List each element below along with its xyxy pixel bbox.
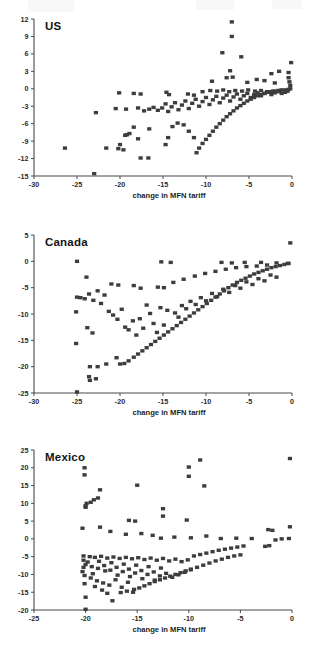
data-point (200, 142, 204, 145)
scatter-plot-us: -15-12-9-6-3036912-30-25-20-15-10-50USch… (0, 0, 311, 215)
data-point (214, 125, 218, 128)
panel-title-mexico: Mexico (45, 451, 85, 463)
data-point (204, 551, 208, 554)
data-point (80, 527, 84, 530)
data-point (116, 147, 120, 150)
data-point (262, 279, 266, 282)
data-point (155, 331, 159, 334)
data-point (211, 130, 215, 133)
data-point (115, 573, 119, 576)
data-point (186, 558, 190, 561)
data-point (200, 90, 204, 93)
data-point (273, 538, 277, 541)
data-point (194, 303, 198, 306)
data-point (250, 283, 254, 286)
data-point (139, 532, 143, 535)
data-point (82, 582, 86, 585)
data-point (182, 123, 186, 126)
data-point (220, 51, 224, 54)
data-point (286, 262, 290, 265)
data-point (90, 331, 94, 334)
data-point (228, 112, 232, 115)
data-point (127, 359, 131, 362)
x-tick-label: -30 (29, 397, 39, 406)
data-point (170, 105, 174, 108)
data-point (111, 555, 115, 558)
data-point (146, 565, 150, 568)
data-point (219, 261, 223, 264)
data-point (220, 557, 224, 560)
y-tick-label: -15 (18, 588, 28, 597)
data-point (85, 326, 89, 329)
data-point (226, 286, 230, 289)
data-point (148, 312, 152, 315)
data-point (75, 390, 79, 393)
data-point (147, 127, 151, 130)
chart-panel-mexico: -20-15-10-50510152025-25-20-15-10-50Mexi… (0, 428, 311, 646)
data-point (100, 588, 104, 591)
data-point (151, 106, 155, 109)
data-point (162, 286, 166, 289)
data-point (132, 355, 136, 358)
x-tick-label: 0 (290, 397, 294, 406)
panel-title-us: US (45, 20, 62, 32)
data-point (139, 286, 143, 289)
data-point (136, 106, 140, 109)
axis-spines (34, 450, 292, 610)
data-point (238, 553, 242, 556)
data-point (228, 99, 232, 102)
data-point (173, 573, 177, 576)
data-point (287, 537, 291, 540)
data-point (227, 291, 231, 294)
data-point (81, 566, 85, 569)
data-point (194, 98, 198, 101)
data-point (88, 379, 92, 382)
data-point (268, 273, 272, 276)
data-point (197, 105, 201, 108)
data-point (230, 35, 234, 38)
y-tick-label: -12 (18, 154, 28, 163)
x-tick-label: -25 (72, 397, 82, 406)
data-point (87, 292, 91, 295)
data-point (126, 581, 130, 584)
data-point (121, 148, 125, 151)
data-point (224, 268, 228, 271)
data-point (93, 585, 97, 588)
data-point (175, 324, 179, 327)
data-point (265, 268, 269, 271)
data-point (173, 557, 177, 560)
data-point (201, 564, 205, 567)
data-point (115, 318, 119, 321)
data-point (179, 560, 183, 563)
y-tick-label: 6 (25, 49, 29, 58)
data-point (128, 575, 132, 578)
data-point (127, 519, 131, 522)
data-point (138, 317, 142, 320)
y-tick-label: 5 (25, 231, 29, 240)
x-axis-title: change in MFN tariff (133, 408, 206, 417)
data-point (96, 365, 100, 368)
data-point (208, 89, 212, 92)
data-point (226, 556, 230, 559)
data-point (204, 138, 208, 141)
data-point (159, 260, 163, 263)
data-point (187, 107, 191, 110)
data-point (171, 281, 175, 284)
data-point (176, 121, 180, 124)
data-point (167, 93, 171, 96)
data-point (227, 90, 231, 93)
data-point (118, 143, 122, 146)
data-point (217, 549, 221, 552)
y-tick-label: 12 (21, 15, 29, 24)
data-point (132, 284, 136, 287)
data-point (98, 525, 102, 528)
x-tick-label: -20 (115, 397, 125, 406)
data-point (132, 588, 136, 591)
panel-title-canada: Canada (45, 236, 88, 248)
data-point (147, 107, 151, 110)
data-point (210, 292, 214, 295)
data-point (124, 107, 128, 110)
data-point (111, 313, 115, 316)
data-point (255, 264, 259, 267)
y-tick-label: -6 (22, 119, 28, 128)
